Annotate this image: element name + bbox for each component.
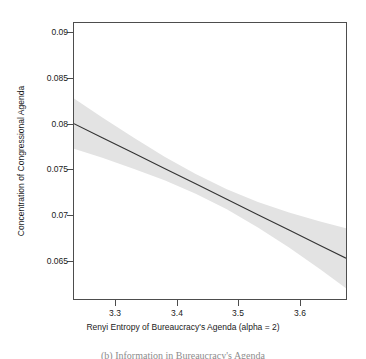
y-tick-label: 0.07: [51, 211, 68, 220]
plot-panel: [73, 22, 347, 300]
y-tick-label: 0.065: [47, 257, 68, 266]
x-tick-mark: [115, 300, 116, 306]
figure-container: 0.09 0.085 0.08 0.075 0.07 0.065 3.3 3.4…: [0, 0, 366, 359]
x-tick-mark: [238, 300, 239, 306]
y-tick-label: 0.085: [47, 74, 68, 83]
figure-caption: (b) Information in Bureaucracy's Agenda: [0, 350, 366, 359]
plot-canvas: [74, 23, 346, 299]
x-tick-label: 3.6: [294, 309, 306, 318]
y-tick-label: 0.09: [51, 28, 68, 37]
y-tick-label: 0.08: [51, 120, 68, 129]
x-tick-label: 3.5: [232, 309, 244, 318]
x-tick-label: 3.4: [171, 309, 183, 318]
y-axis-title: Concentration of Congressional Agenda: [14, 22, 28, 300]
regression-line: [74, 124, 346, 259]
x-tick-label: 3.3: [109, 309, 121, 318]
x-tick-mark: [177, 300, 178, 306]
y-tick-label: 0.075: [47, 165, 68, 174]
x-axis-title: Renyi Entropy of Bureaucracy's Agenda (a…: [0, 322, 366, 332]
x-tick-mark: [300, 300, 301, 306]
confidence-band: [74, 99, 346, 289]
